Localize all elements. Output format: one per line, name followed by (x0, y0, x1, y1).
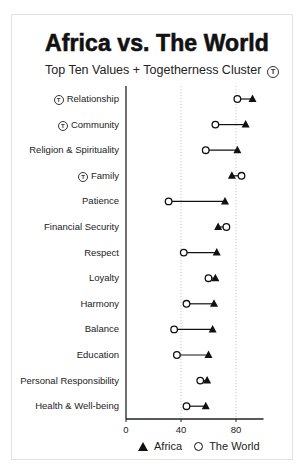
category-label: Education (77, 349, 119, 360)
category-label-text: Family (91, 170, 119, 181)
africa-point (214, 223, 222, 231)
category-label-text: Harmony (80, 298, 119, 309)
category-label-text: Community (71, 119, 119, 130)
africa-point (202, 402, 210, 410)
world-point (212, 121, 219, 128)
world-point (223, 224, 230, 231)
category-label: Harmony (80, 298, 119, 309)
category-label-text: Education (77, 349, 119, 360)
category-label-text: Personal Responsibility (20, 375, 119, 386)
legend-world-label: The World (209, 440, 260, 452)
category-label-text: Relationship (67, 93, 119, 104)
category-label: Religion & Spirituality (29, 144, 119, 155)
world-point (205, 275, 212, 282)
category-label-text: Balance (85, 323, 119, 334)
africa-point (233, 146, 241, 154)
africa-point (211, 274, 219, 282)
africa-point (242, 120, 250, 128)
category-label-text: Financial Security (44, 221, 119, 232)
category-label: Loyalty (89, 272, 119, 283)
category-label-text: Health & Well-being (35, 400, 119, 411)
category-label-text: Patience (82, 195, 119, 206)
world-point (171, 326, 178, 333)
world-point (202, 147, 209, 154)
category-label-text: Respect (84, 247, 119, 258)
category-label: Balance (85, 323, 119, 334)
category-label: Health & Well-being (35, 400, 119, 411)
world-circle-icon (194, 442, 203, 451)
x-tick-label: 80 (231, 424, 242, 435)
africa-point (228, 171, 236, 179)
world-point (165, 198, 172, 205)
world-point (183, 301, 190, 308)
category-label: TRelationship (54, 93, 119, 105)
africa-point (221, 197, 229, 205)
africa-point (210, 299, 218, 307)
category-label: Patience (82, 195, 119, 206)
category-label: TCommunity (58, 119, 119, 131)
world-point (234, 96, 241, 103)
circled-t-icon: T (54, 95, 64, 105)
legend: Africa The World (138, 440, 260, 452)
africa-point (203, 376, 211, 384)
world-point (180, 249, 187, 256)
circled-t-icon: T (58, 121, 68, 131)
world-point (183, 403, 190, 410)
legend-africa-label: Africa (154, 440, 182, 452)
x-tick-label: 40 (176, 424, 187, 435)
world-point (238, 173, 245, 180)
circled-t-icon: T (78, 172, 88, 182)
category-label-text: Loyalty (89, 272, 119, 283)
axes (126, 86, 264, 422)
africa-triangle-icon (138, 442, 148, 451)
africa-point (209, 325, 217, 333)
africa-point (213, 248, 221, 256)
africa-point (205, 351, 213, 359)
category-label: Respect (84, 247, 119, 258)
world-point (197, 377, 204, 384)
africa-point (249, 95, 257, 103)
category-label: Financial Security (44, 221, 119, 232)
category-label: Personal Responsibility (20, 375, 119, 386)
category-label-text: Religion & Spirituality (29, 144, 119, 155)
world-point (174, 352, 181, 359)
data-marks (165, 95, 256, 410)
x-tick-label: 0 (123, 424, 128, 435)
category-label: TFamily (78, 170, 119, 182)
